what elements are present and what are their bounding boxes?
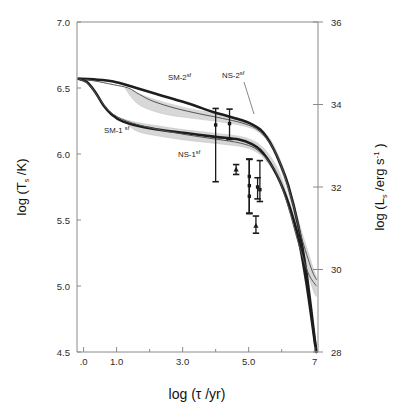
bottom-tick-label: 5.0 bbox=[242, 356, 255, 367]
annotation-superscript: sf bbox=[187, 72, 192, 78]
annotation-superscript: sf bbox=[196, 149, 201, 155]
left-axis-title-pre: log (T bbox=[14, 182, 29, 215]
figure-container: 7.06.56.05.55.04.53634323028.01.03.05.07… bbox=[0, 0, 406, 419]
bottom-tick-label: .0 bbox=[80, 356, 88, 367]
cooling-curve-chart: 7.06.56.05.55.04.53634323028.01.03.05.07… bbox=[0, 0, 406, 419]
right-tick-label: 36 bbox=[331, 17, 342, 28]
right-tick-label: 28 bbox=[331, 347, 342, 358]
annotation-base: SM-1 bbox=[104, 126, 125, 135]
right-axis-title-mid: /erg s bbox=[372, 158, 387, 195]
annotation-base: NS-1 bbox=[178, 150, 196, 159]
left-tick-label: 6.5 bbox=[57, 83, 70, 94]
errorbar-marker-square bbox=[228, 122, 231, 125]
right-axis-title-post: ) bbox=[372, 143, 387, 151]
left-tick-label: 6.0 bbox=[57, 149, 70, 160]
left-axis-title: log (Ts /K) bbox=[14, 159, 30, 216]
bottom-axis-title-pre: log ( bbox=[169, 386, 197, 402]
annotation-superscript: sf bbox=[240, 70, 245, 76]
bottom-axis-title-post: /yr) bbox=[201, 386, 225, 402]
svg-text:log (Ts /K): log (Ts /K) bbox=[14, 159, 30, 216]
bottom-tick-label: 3.0 bbox=[176, 356, 189, 367]
left-axis-title-post: /K) bbox=[14, 159, 29, 179]
left-tick-label: 5.5 bbox=[57, 215, 70, 226]
right-axis-title-pre: log (L bbox=[372, 198, 387, 231]
errorbar-marker-square bbox=[214, 123, 217, 126]
annotation-superscript: sf bbox=[125, 125, 130, 131]
annotation-base: NS-2 bbox=[222, 71, 240, 80]
bottom-axis-title: log (τ /yr) bbox=[169, 386, 226, 402]
left-tick-label: 5.0 bbox=[57, 281, 70, 292]
right-tick-label: 32 bbox=[331, 182, 342, 193]
left-tick-label: 4.5 bbox=[57, 347, 70, 358]
right-tick-label: 30 bbox=[331, 264, 342, 275]
annotation-base: SM-2 bbox=[168, 73, 187, 82]
bottom-tick-label: 7 bbox=[312, 356, 317, 367]
bottom-tick-label: 1.0 bbox=[110, 356, 123, 367]
left-tick-label: 7.0 bbox=[57, 17, 70, 28]
errorbar-marker-square bbox=[258, 188, 261, 191]
errorbar-marker-square bbox=[248, 195, 251, 198]
right-tick-label: 34 bbox=[331, 99, 342, 110]
